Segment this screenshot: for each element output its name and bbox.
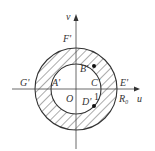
label-b: B' xyxy=(80,63,89,74)
label-u: u xyxy=(137,93,142,104)
label-g: G' xyxy=(20,77,30,88)
label-c: C' xyxy=(91,77,101,88)
label-o: O xyxy=(66,93,73,104)
label-v: v xyxy=(66,11,71,22)
label-e: E' xyxy=(119,77,129,88)
label-f: F' xyxy=(62,33,72,44)
annulus-diagram: v u F' G' A' O B' C' D' 1 E' R₀ xyxy=(0,0,155,151)
point-b xyxy=(92,64,96,68)
label-a: A' xyxy=(51,77,61,88)
point-d xyxy=(92,104,96,108)
label-one: 1 xyxy=(94,91,99,102)
label-d: D' xyxy=(81,96,92,107)
shaded-annulus xyxy=(0,0,155,151)
label-r0: R₀ xyxy=(118,93,129,104)
